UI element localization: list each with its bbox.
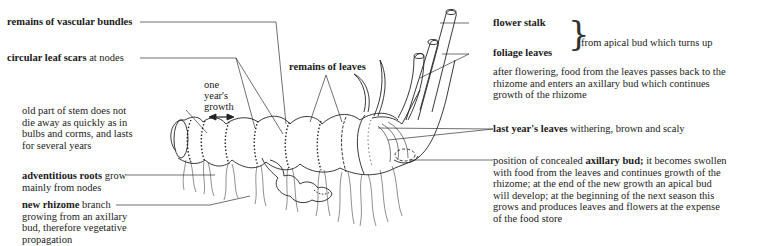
label-vascular-bundles: remains of vascular bundles — [7, 16, 132, 28]
label-last-years-leaves: last year's leaves withering, brown and … — [493, 123, 685, 135]
new-rhizome-branch — [262, 158, 332, 203]
label-axillary-bud: position of concealed axillary bud; it b… — [493, 155, 727, 224]
label-new-rhizome: new rhizome branch growing from an axill… — [22, 199, 127, 245]
adventitious-roots — [183, 160, 402, 226]
label-flower-stalk: flower stalk — [493, 17, 546, 29]
label-circular-leaf-scars: circular leaf scars at nodes — [7, 52, 124, 64]
label-adventitious-roots: adventitious roots grow mainly from node… — [22, 170, 126, 193]
label-foliage-leaves: foliage leaves — [493, 47, 552, 59]
rhizome-segments — [171, 113, 415, 175]
shoot — [354, 10, 456, 163]
label-old-stem: old part of stem does not die away as qu… — [22, 105, 133, 151]
label-apical-bud: from apical bud which turns up — [581, 37, 713, 49]
label-one-years-growth: one year's growth — [204, 79, 234, 112]
double-headed-arrow-icon — [209, 114, 234, 120]
label-remains-of-leaves: remains of leaves — [289, 61, 366, 73]
label-after-flowering: after flowering, food from the leaves pa… — [493, 66, 726, 101]
